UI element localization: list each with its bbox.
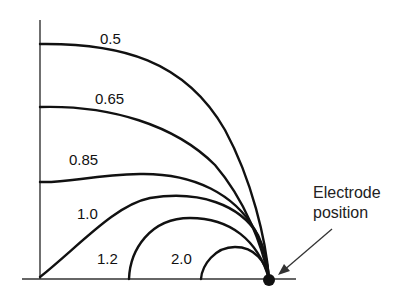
contour-0-65	[40, 107, 269, 279]
arrow-line	[283, 229, 332, 271]
label-1-0: 1.0	[77, 205, 98, 222]
contour-diagram: 0.5 0.65 0.85 1.0 1.2 2.0 Electrode posi…	[0, 0, 420, 301]
contour-0-85	[40, 174, 269, 279]
label-0-65: 0.65	[95, 90, 124, 107]
label-0-5: 0.5	[100, 30, 121, 47]
label-1-2: 1.2	[97, 250, 118, 267]
electrode-dot	[263, 274, 275, 286]
contour-2-0	[201, 247, 269, 279]
contour-1-0	[40, 196, 269, 279]
label-2-0: 2.0	[171, 250, 192, 267]
annotation-line2: position	[313, 204, 368, 221]
arrow-head-icon	[278, 264, 290, 275]
annotation-line1: Electrode	[313, 184, 381, 201]
label-0-85: 0.85	[69, 151, 98, 168]
